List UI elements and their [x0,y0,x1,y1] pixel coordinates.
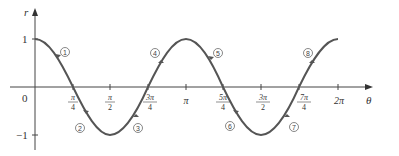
svg-text:4: 4 [153,50,157,57]
y-axis-label: r [24,6,29,18]
y-tick-label-neg1: −1 [16,129,28,141]
x-axis-arrow-icon [365,84,373,90]
direction-arrow-icon [83,110,89,114]
tick-pi2-num: π [108,93,113,102]
svg-text:1: 1 [63,49,67,56]
tick-3pi2-num: 3π [258,93,268,102]
svg-text:7: 7 [292,124,296,131]
segment-marker-5: 5 [214,49,223,58]
svg-text:3: 3 [136,125,140,132]
segment-marker-3: 3 [134,124,143,133]
tick-3pi2-den: 2 [261,103,265,112]
y-tick-label-1: 1 [22,33,28,45]
tick-7pi4-den: 4 [302,103,306,112]
svg-text:5: 5 [216,50,220,57]
tick-pi4-num: π [71,93,76,102]
segment-marker-2: 2 [76,124,85,133]
segment-marker-1: 1 [61,48,70,57]
tick-7pi4-num: 7π [300,93,309,102]
tick-pi: π [183,95,189,106]
x-axis-label: θ [366,94,372,106]
svg-text:8: 8 [306,50,310,57]
tick-3pi4-num: 3π [145,93,155,102]
segment-marker-7: 7 [290,123,299,132]
svg-text:2: 2 [78,125,82,132]
segment-marker-4: 4 [151,49,160,58]
tick-2pi: 2π [334,95,345,106]
tick-pi4-den: 4 [71,103,75,112]
y-axis-arrow-icon [32,8,38,16]
segment-marker-8: 8 [304,49,313,58]
tick-5pi4-den: 4 [221,103,225,112]
tick-3pi4-den: 4 [148,103,152,112]
cos2theta-chart: r θ 0 1 −1 π 4 π 2 3π 4 π 5π 4 3π 2 7π 4… [0,0,399,156]
origin-label: 0 [22,92,28,104]
segment-marker-6: 6 [226,122,235,131]
tick-pi2-den: 2 [108,103,112,112]
svg-text:6: 6 [228,123,232,130]
